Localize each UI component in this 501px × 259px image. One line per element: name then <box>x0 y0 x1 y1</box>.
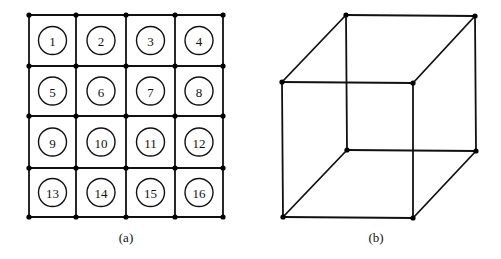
grid-vertex-dot <box>172 165 177 170</box>
grid-cell-node: 11 <box>137 128 165 156</box>
grid-cell-node: 13 <box>39 179 67 207</box>
cell-label: 15 <box>144 186 157 201</box>
figure-canvas: 12345678910111213141516 <box>0 0 501 259</box>
grid-cell-node: 5 <box>39 77 67 105</box>
grid-cell-node: 16 <box>185 179 213 207</box>
cell-label: 11 <box>144 136 157 151</box>
cell-label: 13 <box>46 186 59 201</box>
grid-vertex-dot <box>73 63 78 68</box>
cube-edge <box>413 151 476 218</box>
grid-cell-node: 15 <box>137 179 165 207</box>
grid-vertex-dot <box>172 214 177 219</box>
cell-label: 5 <box>49 85 56 100</box>
cube-edge <box>475 16 476 151</box>
cell-label: 4 <box>196 34 203 49</box>
cube-edge <box>282 15 346 82</box>
mesh-grid-diagram: 12345678910111213141516 <box>26 12 225 219</box>
cube-graph-diagram <box>279 12 478 220</box>
cell-label: 6 <box>98 85 105 100</box>
cube-vertex-dot <box>279 79 284 84</box>
grid-cell-node: 14 <box>87 179 115 207</box>
grid-vertex-dot <box>73 165 78 170</box>
cell-label: 12 <box>193 136 206 151</box>
grid-cell-node: 1 <box>39 27 67 55</box>
cube-vertex-dot <box>344 147 349 152</box>
cube-edge <box>346 15 475 16</box>
grid-vertex-dot <box>220 165 225 170</box>
cube-vertex-dot <box>410 215 415 220</box>
cell-label: 7 <box>147 85 154 100</box>
grid-cell-node: 4 <box>185 27 213 55</box>
cell-label: 10 <box>95 136 108 151</box>
cell-label: 2 <box>98 34 105 49</box>
cube-vertex-dot <box>473 148 478 153</box>
cell-label: 1 <box>49 34 56 49</box>
grid-vertex-dot <box>123 63 128 68</box>
grid-vertex-dot <box>26 113 31 118</box>
grid-cell-node: 7 <box>137 77 165 105</box>
cell-label: 8 <box>196 85 203 100</box>
cube-edge <box>413 16 475 83</box>
grid-vertex-dot <box>26 12 31 17</box>
grid-vertex-dot <box>123 113 128 118</box>
grid-vertex-dot <box>220 113 225 118</box>
grid-cell-node: 6 <box>87 77 115 105</box>
caption-a: (a) <box>119 230 133 246</box>
grid-cell-node: 9 <box>39 128 67 156</box>
cell-label: 14 <box>95 186 109 201</box>
grid-vertex-dot <box>73 214 78 219</box>
grid-vertex-dot <box>220 214 225 219</box>
cube-edge <box>283 150 347 217</box>
grid-cell-node: 8 <box>185 77 213 105</box>
cube-edge <box>347 150 476 151</box>
grid-vertex-dot <box>26 63 31 68</box>
grid-vertex-dot <box>172 113 177 118</box>
grid-vertex-dot <box>172 63 177 68</box>
cube-vertex-dot <box>472 13 477 18</box>
grid-vertex-dot <box>123 165 128 170</box>
grid-vertex-dot <box>26 165 31 170</box>
grid-cell-node: 10 <box>87 128 115 156</box>
cube-edge <box>282 82 283 217</box>
caption-b: (b) <box>368 230 383 246</box>
grid-vertex-dot <box>73 113 78 118</box>
cube-edge <box>346 15 347 150</box>
grid-cell-node: 2 <box>87 27 115 55</box>
grid-cell-node: 3 <box>137 27 165 55</box>
grid-vertex-dot <box>220 63 225 68</box>
grid-cell-node: 12 <box>185 128 213 156</box>
grid-vertex-dot <box>73 12 78 17</box>
cell-label: 3 <box>147 34 154 49</box>
grid-vertex-dot <box>172 12 177 17</box>
grid-vertex-dot <box>220 12 225 17</box>
cell-label: 9 <box>49 136 56 151</box>
cube-vertex-dot <box>410 80 415 85</box>
cube-vertex-dot <box>343 12 348 17</box>
grid-vertex-dot <box>123 214 128 219</box>
cube-edge <box>283 217 413 218</box>
grid-vertex-dot <box>123 12 128 17</box>
cube-vertex-dot <box>280 214 285 219</box>
grid-vertex-dot <box>26 214 31 219</box>
cube-edge <box>282 82 413 83</box>
cell-label: 16 <box>193 186 207 201</box>
